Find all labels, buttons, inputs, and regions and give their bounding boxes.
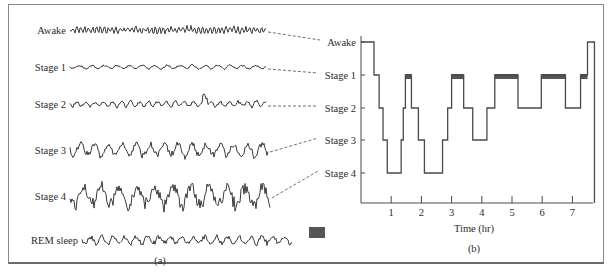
eeg-trace (70, 94, 266, 108)
x-tick-label: 3 (449, 207, 454, 218)
connector-line (268, 32, 320, 40)
trace-label: Stage 3 (35, 145, 66, 156)
trace-label: Stage 4 (35, 191, 67, 202)
eeg-trace (70, 25, 266, 34)
eeg-trace (70, 142, 268, 160)
panel-a-eeg-traces: AwakeStage 1Stage 2Stage 3Stage 4REM sle… (31, 25, 292, 246)
x-tick-label: 7 (570, 207, 575, 218)
trace-to-stage-connectors (268, 32, 320, 198)
stage-label: Stage 1 (325, 70, 356, 81)
trace-label: Stage 2 (35, 99, 66, 110)
stage-label: Stage 3 (325, 135, 356, 146)
rem-legend-swatch (309, 227, 325, 238)
stage-label: Stage 2 (325, 103, 356, 114)
x-axis-label: Time (hr) (454, 223, 495, 235)
panel-a-caption: (a) (154, 255, 166, 267)
x-tick-label: 4 (479, 207, 485, 218)
trace-label: Awake (37, 25, 66, 36)
x-tick-label: 5 (509, 207, 514, 218)
eeg-trace (70, 64, 266, 69)
x-tick-label: 1 (389, 207, 394, 218)
stage-label: Awake (327, 37, 356, 48)
panel-b-caption: (b) (468, 243, 481, 255)
connector-line (272, 171, 318, 198)
stage-label: Stage 4 (325, 168, 357, 179)
hypnogram-line (361, 42, 594, 203)
panel-b-hypnogram: AwakeStage 1Stage 2Stage 3Stage 4 123456… (325, 36, 595, 255)
x-tick-label: 2 (419, 207, 424, 218)
eeg-trace (70, 181, 270, 212)
sleep-stage-figure: AwakeStage 1Stage 2Stage 3Stage 4REM sle… (0, 0, 614, 272)
connector-line (270, 138, 318, 152)
trace-label: Stage 1 (35, 62, 66, 73)
x-tick-label: 6 (540, 207, 545, 218)
eeg-trace (82, 235, 292, 246)
trace-label: REM sleep (31, 235, 78, 246)
connector-line (268, 69, 318, 73)
